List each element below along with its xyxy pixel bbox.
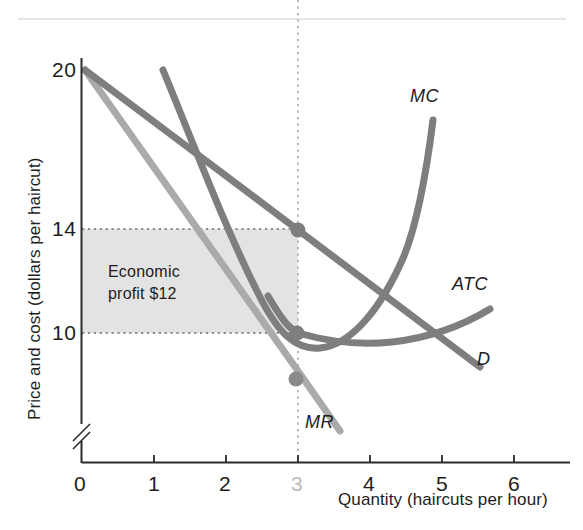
chart-canvas	[0, 0, 583, 530]
y-tick-label-10: 10	[52, 322, 76, 343]
x-tick-label-2: 2	[219, 473, 231, 494]
marker-mr-mc-point	[289, 372, 304, 387]
x-axis-ticks	[154, 455, 514, 462]
marker-cost-point	[290, 326, 305, 341]
x-tick-label-1: 1	[148, 473, 160, 494]
x-axis-title: Quantity (haircuts per hour)	[338, 491, 548, 508]
y-tick-label-20: 20	[52, 59, 76, 80]
marker-price-point	[291, 223, 306, 238]
x-tick-label-3: 3	[291, 473, 303, 494]
curve-label-mr: MR	[305, 413, 334, 431]
x-tick-label-0: 0	[74, 473, 86, 494]
y-tick-label-14: 14	[52, 218, 76, 239]
economics-figure: 20 14 10 0 1 2 3 4 5 6 MC ATC D MR Econo…	[0, 0, 583, 530]
economic-profit-line-1: Economic	[108, 261, 180, 283]
axis-break-slash-upper	[73, 424, 90, 441]
economic-profit-annotation: Economic profit $12	[108, 261, 180, 304]
y-axis-title: Price and cost (dollars per haircut)	[26, 158, 43, 421]
curve-label-atc: ATC	[452, 275, 488, 293]
economic-profit-line-2: profit $12	[108, 283, 180, 305]
curve-label-d: D	[477, 350, 490, 368]
curve-label-mc: MC	[410, 87, 439, 105]
